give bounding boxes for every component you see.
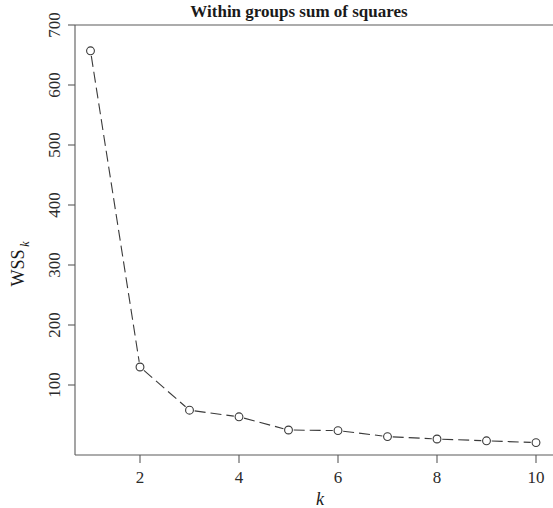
x-tick-label-6: 6 (334, 468, 343, 487)
x-tick-label-10: 10 (528, 468, 545, 487)
y-tick-label-300: 300 (45, 252, 64, 278)
y-tick-label-500: 500 (45, 132, 64, 158)
y-tick-label-600: 600 (45, 72, 64, 98)
x-tick-label-8: 8 (433, 468, 442, 487)
x-tick-label-4: 4 (235, 468, 244, 487)
chart-title: Within groups sum of squares (190, 2, 408, 21)
y-tick-label-400: 400 (45, 192, 64, 218)
y-tick-label-200: 200 (45, 312, 64, 338)
y-tick-label-700: 700 (45, 12, 64, 38)
y-axis-label-subscript: k (18, 241, 32, 247)
y-tick-label-100: 100 (45, 372, 64, 398)
y-axis-label-main: WSS (8, 249, 28, 286)
chart-container: Within groups sum of squares 700 600 500… (0, 0, 553, 508)
x-axis-label: k (316, 489, 325, 508)
x-tick-label-2: 2 (136, 468, 145, 487)
plot-background (0, 0, 553, 508)
within-groups-sum-of-squares-plot: Within groups sum of squares 700 600 500… (0, 0, 553, 508)
